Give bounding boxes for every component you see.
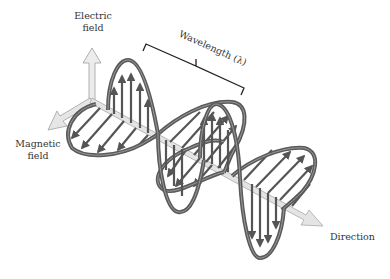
magnetic-field-label: Magnetic field (12, 138, 64, 162)
electric-loop-4 (240, 178, 284, 258)
magnetic-field-label-line2: field (12, 150, 64, 162)
magnetic-field-label-line1: Magnetic (12, 138, 64, 150)
direction-label: Direction (330, 231, 375, 243)
electric-field-label-line1: Electric (72, 10, 114, 22)
em-wave-diagram: Electric field Magnetic field Wavelength… (0, 0, 390, 279)
electric-field-label: Electric field (72, 10, 114, 34)
electric-field-label-line2: field (72, 22, 114, 34)
electric-field-axis-arrow (83, 48, 101, 100)
